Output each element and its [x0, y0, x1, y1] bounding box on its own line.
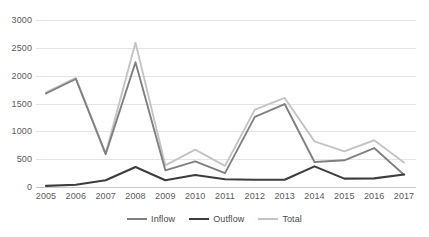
- x-axis: 2005200620072008200920102011201220132014…: [0, 191, 429, 207]
- series-line-total: [46, 43, 404, 166]
- x-axis-tick-label: 2013: [274, 191, 294, 201]
- legend-label: Total: [282, 215, 302, 224]
- x-axis-tick-label: 2012: [245, 191, 265, 201]
- x-axis-tick-label: 2005: [36, 191, 56, 201]
- line-chart: 050010001500200025003000 200520062007200…: [0, 0, 429, 237]
- legend-item-outflow[interactable]: Outflow: [189, 215, 244, 224]
- x-axis-tick-label: 2009: [155, 191, 175, 201]
- legend-swatch-total-icon: [258, 218, 278, 220]
- legend-swatch-inflow-icon: [127, 218, 147, 220]
- x-axis-tick-label: 2010: [185, 191, 205, 201]
- chart-legend: InflowOutflowTotal: [0, 210, 429, 228]
- x-axis-tick-label: 2014: [304, 191, 324, 201]
- legend-item-total[interactable]: Total: [258, 215, 302, 224]
- x-axis-tick-label: 2017: [394, 191, 414, 201]
- series-line-outflow: [46, 166, 404, 185]
- x-axis-tick-label: 2016: [364, 191, 384, 201]
- x-axis-tick-label: 2008: [125, 191, 145, 201]
- x-axis-tick-label: 2007: [95, 191, 115, 201]
- series-line-inflow: [46, 62, 404, 174]
- legend-label: Outflow: [213, 215, 244, 224]
- x-axis-tick-label: 2006: [66, 191, 86, 201]
- legend-item-inflow[interactable]: Inflow: [127, 215, 175, 224]
- legend-swatch-outflow-icon: [189, 218, 209, 220]
- legend-label: Inflow: [151, 215, 175, 224]
- x-axis-tick-label: 2015: [334, 191, 354, 201]
- x-axis-tick-label: 2011: [215, 191, 235, 201]
